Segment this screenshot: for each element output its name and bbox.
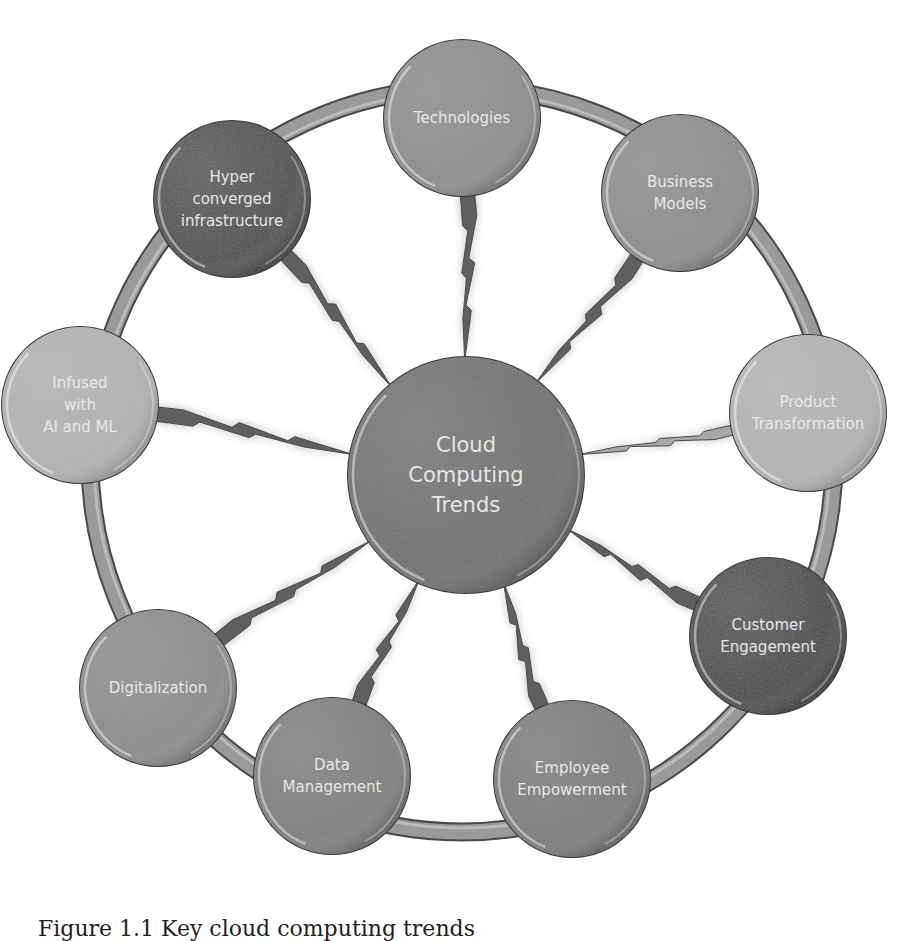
- node-technologies: Technologies: [383, 39, 541, 197]
- node-infused-ai-ml: InfusedwithAI and ML: [1, 326, 159, 484]
- node-digitalization-label: Digitalization: [109, 679, 208, 697]
- connector-technologies: [460, 192, 477, 361]
- node-digitalization: Digitalization: [79, 609, 237, 767]
- node-data-management: DataManagement: [253, 697, 411, 855]
- figure-caption: Figure 1.1 Key cloud computing trends: [38, 916, 475, 941]
- connector-data-management: [351, 579, 419, 709]
- center-node: CloudComputingTrends: [347, 356, 585, 594]
- node-technologies-label: Technologies: [413, 109, 511, 127]
- center-hub: CloudComputingTrends: [347, 356, 585, 594]
- connector-product-transformation: [578, 424, 736, 454]
- node-customer-engagement: CustomerEngagement: [689, 557, 847, 715]
- connector-employee-empowerment: [504, 583, 551, 713]
- connector-infused-ai-ml: [152, 407, 353, 455]
- node-business-models: BusinessModels: [601, 114, 759, 272]
- connector-customer-engagement: [567, 529, 704, 612]
- connector-business-models: [535, 250, 645, 384]
- connector-hyper-converged-infrastructure: [278, 248, 392, 388]
- node-hyper-converged-infrastructure: Hyperconvergedinfrastructure: [153, 120, 311, 278]
- connector-digitalization: [212, 540, 372, 648]
- node-product-transformation: ProductTransformation: [729, 334, 887, 492]
- node-employee-empowerment: EmployeeEmpowerment: [493, 700, 651, 858]
